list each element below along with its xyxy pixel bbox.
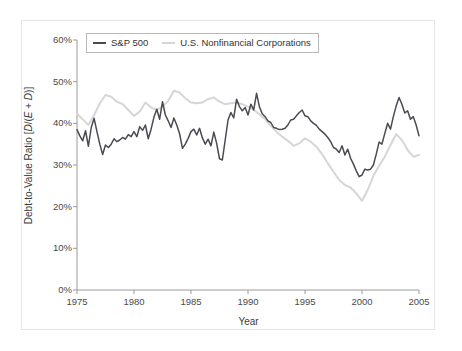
x-tick-label: 1980 (112, 297, 156, 307)
series-line-u-s-nonfinancial-corporations (77, 91, 419, 201)
x-tick-label: 1985 (169, 297, 213, 307)
y-axis-title-plus: + (23, 100, 34, 111)
x-tick-label: 1975 (55, 297, 99, 307)
figure-container: 0%10%20%30%40%50%60% 1975198019851990199… (0, 0, 462, 351)
legend-swatch-icon (93, 42, 106, 44)
y-axis-title-suffix: )] (23, 87, 34, 93)
legend-label: S&P 500 (111, 38, 148, 48)
y-axis-title-d-numerator: D (23, 124, 34, 131)
data-series-layer (77, 91, 419, 201)
chart-legend: S&P 500U.S. Nonfinancial Corporations (86, 33, 319, 53)
y-axis-ticks (73, 40, 77, 290)
x-tick-label: 2005 (397, 297, 441, 307)
x-axis-title: Year (77, 316, 420, 327)
y-axis-title: Debt-to-Value Ratio [D/(E + D)] (23, 56, 34, 256)
y-axis-title-d-denominator: D (23, 93, 34, 100)
legend-label: U.S. Nonfinancial Corporations (180, 38, 310, 48)
legend-entry: S&P 500 (93, 38, 148, 48)
axis-lines (77, 40, 419, 290)
x-tick-label: 1990 (226, 297, 270, 307)
legend-entry: U.S. Nonfinancial Corporations (162, 38, 310, 48)
y-axis-title-e: E (23, 112, 34, 119)
y-tick-label: 60% (20, 35, 72, 45)
y-axis-title-mid: /( (23, 118, 34, 124)
x-axis-ticks (77, 290, 419, 294)
x-tick-label: 2000 (340, 297, 384, 307)
legend-swatch-icon (162, 42, 175, 44)
x-tick-label: 1995 (283, 297, 327, 307)
y-axis-title-prefix: Debt-to-Value Ratio [ (23, 132, 34, 225)
y-tick-label: 0% (20, 285, 72, 295)
